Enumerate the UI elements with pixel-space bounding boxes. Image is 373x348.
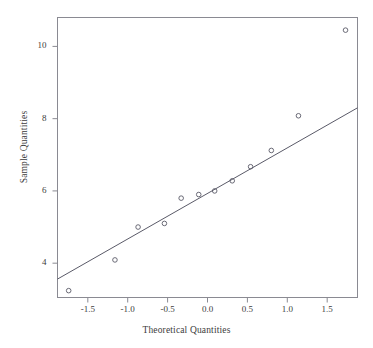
y-tick-label: 10 [17,40,47,50]
data-point-marker [196,192,201,197]
data-point-marker [162,221,167,226]
plot-border [58,18,358,298]
data-points [66,28,347,293]
x-tick-label: 0.5 [227,304,267,314]
data-point-marker [343,28,348,33]
x-tick-label: -1.5 [68,304,108,314]
x-tick-label: -0.5 [148,304,188,314]
qq-reference-line [58,108,358,279]
x-tick-label: -1.0 [108,304,148,314]
reference-line [58,108,358,279]
x-axis-title: Theoretical Quantities [0,325,373,335]
data-point-marker [113,258,118,263]
x-axis-ticks [88,298,327,303]
data-point-marker [136,225,141,230]
y-tick-label: 4 [17,257,47,267]
x-tick-label: 1.0 [267,304,307,314]
data-point-marker [296,113,301,118]
plot-frame [58,18,358,298]
data-point-marker [179,196,184,201]
data-point-marker [269,148,274,153]
qq-plot-canvas [0,0,373,348]
y-axis-title: Sample Quantities [19,67,29,227]
qq-plot-figure: Theoretical Quantities Sample Quantities… [0,0,373,348]
data-point-marker [66,288,71,293]
y-tick-label: 6 [17,185,47,195]
y-tick-label: 8 [17,113,47,123]
x-tick-label: 1.5 [307,304,347,314]
x-tick-label: 0.0 [188,304,228,314]
y-axis-ticks [53,46,58,263]
